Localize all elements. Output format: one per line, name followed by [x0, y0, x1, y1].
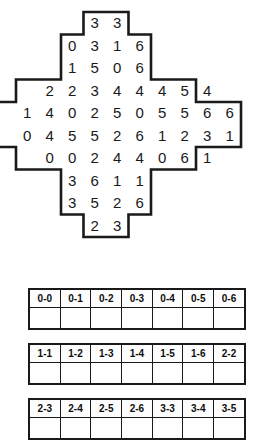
- puzzle-row: 0 0 2 4 4 0 6 1: [39, 147, 219, 170]
- puzzle-cell[interactable]: 4: [129, 147, 152, 170]
- puzzle-cell[interactable]: 3: [196, 125, 219, 148]
- domino-label: 1-6: [183, 344, 214, 363]
- puzzle-cell[interactable]: 3: [84, 12, 107, 35]
- domino-check-cell[interactable]: [214, 363, 245, 385]
- domino-check-cell[interactable]: [91, 363, 122, 385]
- puzzle-cell[interactable]: 0: [39, 147, 62, 170]
- puzzle-cell[interactable]: 6: [196, 102, 219, 125]
- domino-label: 0-5: [183, 289, 214, 308]
- puzzle-cell[interactable]: 5: [84, 125, 107, 148]
- domino-check-cell[interactable]: [91, 418, 122, 440]
- puzzle-cell[interactable]: 6: [174, 147, 197, 170]
- puzzle-cell[interactable]: 1: [106, 170, 129, 193]
- puzzle-cell[interactable]: 4: [106, 147, 129, 170]
- domino-check-cell[interactable]: [183, 418, 214, 440]
- puzzle-cell[interactable]: 3: [84, 80, 107, 103]
- puzzle-cell[interactable]: 4: [39, 125, 62, 148]
- domino-label: 2-5: [91, 399, 122, 418]
- puzzle-cell[interactable]: 0: [61, 35, 84, 58]
- puzzle-cell[interactable]: 1: [129, 170, 152, 193]
- puzzle-cell[interactable]: 1: [106, 35, 129, 58]
- domino-label: 0-4: [152, 289, 183, 308]
- domino-label: 1-4: [122, 344, 153, 363]
- puzzle-cell[interactable]: 2: [106, 125, 129, 148]
- puzzle-cell[interactable]: 2: [61, 80, 84, 103]
- domino-label: 0-0: [29, 289, 60, 308]
- puzzle-cell[interactable]: 0: [16, 125, 39, 148]
- puzzle-cell[interactable]: 5: [84, 192, 107, 215]
- domino-label: 2-2: [214, 344, 245, 363]
- puzzle-cell[interactable]: 6: [129, 35, 152, 58]
- puzzle-cell[interactable]: 2: [39, 80, 62, 103]
- domino-label: 2-6: [122, 399, 153, 418]
- domino-check-cell[interactable]: [152, 363, 183, 385]
- domino-check-cell[interactable]: [29, 363, 60, 385]
- domino-check-cell[interactable]: [122, 363, 153, 385]
- domino-check-cell[interactable]: [60, 418, 91, 440]
- puzzle-cell[interactable]: 3: [106, 12, 129, 35]
- puzzle-cell[interactable]: 1: [16, 102, 39, 125]
- puzzle-cell[interactable]: 1: [196, 147, 219, 170]
- puzzle-cell[interactable]: 3: [61, 170, 84, 193]
- domino-check-cell[interactable]: [152, 308, 183, 330]
- domino-check-cell[interactable]: [122, 418, 153, 440]
- domino-checklist-row-2: 1-1 1-2 1-3 1-4 1-5 1-6 2-2: [28, 343, 246, 385]
- puzzle-cell[interactable]: 6: [129, 125, 152, 148]
- domino-check-cell[interactable]: [122, 308, 153, 330]
- table-row-checks: [29, 418, 245, 440]
- table-row-checks: [29, 308, 245, 330]
- domino-check-cell[interactable]: [60, 308, 91, 330]
- puzzle-cell[interactable]: 4: [106, 80, 129, 103]
- puzzle-cell[interactable]: 6: [219, 102, 242, 125]
- puzzle-cell[interactable]: 1: [151, 125, 174, 148]
- puzzle-cell[interactable]: 5: [61, 125, 84, 148]
- puzzle-cell[interactable]: 2: [84, 102, 107, 125]
- puzzle-cell[interactable]: 6: [84, 170, 107, 193]
- puzzle-row: 0 3 1 6: [61, 35, 151, 58]
- puzzle-cell[interactable]: 4: [129, 80, 152, 103]
- puzzle-cell[interactable]: 2: [84, 215, 107, 238]
- puzzle-cell[interactable]: 3: [106, 215, 129, 238]
- domino-check-cell[interactable]: [214, 418, 245, 440]
- domino-check-cell[interactable]: [152, 418, 183, 440]
- puzzle-cell[interactable]: 4: [151, 80, 174, 103]
- domino-check-cell[interactable]: [214, 308, 245, 330]
- domino-check-cell[interactable]: [60, 363, 91, 385]
- domino-check-cell[interactable]: [29, 418, 60, 440]
- puzzle-cell[interactable]: 0: [151, 147, 174, 170]
- puzzle-cell[interactable]: 3: [61, 192, 84, 215]
- puzzle-cell[interactable]: 5: [174, 102, 197, 125]
- puzzle-cell[interactable]: 2: [84, 147, 107, 170]
- domino-check-cell[interactable]: [91, 308, 122, 330]
- puzzle-cell[interactable]: 5: [151, 102, 174, 125]
- puzzle-cell[interactable]: 5: [174, 80, 197, 103]
- puzzle-cell[interactable]: 5: [84, 57, 107, 80]
- puzzle-cell[interactable]: 4: [196, 80, 219, 103]
- puzzle-cell[interactable]: 4: [39, 102, 62, 125]
- puzzle-cell[interactable]: 6: [129, 192, 152, 215]
- puzzle-cell[interactable]: 0: [106, 57, 129, 80]
- puzzle-cell[interactable]: 1: [61, 57, 84, 80]
- puzzle-row: 2 3: [84, 215, 129, 238]
- domino-label: 2-4: [60, 399, 91, 418]
- puzzle-cell[interactable]: 0: [129, 102, 152, 125]
- puzzle-cell[interactable]: 5: [106, 102, 129, 125]
- domino-check-cell[interactable]: [29, 308, 60, 330]
- table-row-checks: [29, 363, 245, 385]
- puzzle-cell[interactable]: 1: [219, 125, 242, 148]
- domino-label: 1-5: [152, 344, 183, 363]
- domino-label: 3-5: [214, 399, 245, 418]
- table-row-labels: 2-3 2-4 2-5 2-6 3-3 3-4 3-5: [29, 399, 245, 418]
- domino-checklist-row-1: 0-0 0-1 0-2 0-3 0-4 0-5 0-6: [28, 288, 246, 330]
- domino-check-cell[interactable]: [183, 363, 214, 385]
- table-row-labels: 0-0 0-1 0-2 0-3 0-4 0-5 0-6: [29, 289, 245, 308]
- domino-label: 0-1: [60, 289, 91, 308]
- table-row-labels: 1-1 1-2 1-3 1-4 1-5 1-6 2-2: [29, 344, 245, 363]
- puzzle-cell[interactable]: 6: [129, 57, 152, 80]
- domino-check-cell[interactable]: [183, 308, 214, 330]
- puzzle-cell[interactable]: 2: [174, 125, 197, 148]
- puzzle-cell[interactable]: 0: [61, 147, 84, 170]
- puzzle-cell[interactable]: 0: [61, 102, 84, 125]
- puzzle-cell[interactable]: 2: [106, 192, 129, 215]
- puzzle-cell[interactable]: 3: [84, 35, 107, 58]
